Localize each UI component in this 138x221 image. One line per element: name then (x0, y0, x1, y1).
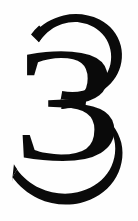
numeral-three-text: 3 (12, 14, 123, 193)
numeral-three-ink-body: 3 (12, 14, 123, 193)
glyph-stage: 3 (0, 0, 138, 221)
page-canvas: 3 3 (0, 0, 138, 221)
numeral-three-icon: 3 (0, 0, 138, 221)
